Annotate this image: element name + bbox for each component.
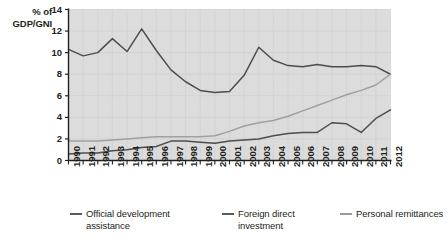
x-tick-label: 1991 <box>87 146 97 167</box>
x-tick-label: 1999 <box>204 146 214 167</box>
x-tick-label: 2003 <box>262 146 272 167</box>
x-tick-label: 2012 <box>394 146 404 167</box>
x-tick-label: 2005 <box>292 146 302 167</box>
x-tick-label: 2001 <box>233 146 243 167</box>
legend-item-personal-remittances: Personal remittances <box>340 208 448 220</box>
x-tick-label: 2006 <box>306 146 316 167</box>
x-tick-label: 2004 <box>277 146 287 167</box>
x-tick-label: 2002 <box>248 146 258 167</box>
legend-swatch-icon <box>222 213 234 215</box>
x-tick-label: 2010 <box>365 146 375 167</box>
x-tick-label: 1993 <box>116 146 126 167</box>
legend-swatch-icon <box>70 213 82 215</box>
legend-swatch-icon <box>340 213 352 215</box>
x-tick-label: 2000 <box>218 146 228 167</box>
x-tick-label: 1994 <box>131 146 141 167</box>
x-tick-label: 1995 <box>145 146 155 167</box>
x-tick-label: 1997 <box>175 146 185 167</box>
x-tick-label: 2007 <box>321 146 331 167</box>
x-tick-label: 1990 <box>72 146 82 167</box>
legend-label: Foreign direct investment <box>238 208 295 231</box>
x-tick-label: 1996 <box>160 146 170 167</box>
legend-item-foreign-direct-investment: Foreign direct investment <box>222 208 337 231</box>
x-tick-label: 1998 <box>189 146 199 167</box>
chart-legend: Official development assistance Foreign … <box>60 208 400 242</box>
legend-item-official-development-assistance: Official development assistance <box>70 208 220 231</box>
x-tick-label: 2008 <box>336 146 346 167</box>
x-tick-label: 1992 <box>101 146 111 167</box>
legend-label: Official development assistance <box>86 208 170 231</box>
legend-label: Personal remittances <box>356 208 443 220</box>
x-tick-label: 2011 <box>379 146 389 167</box>
x-tick-label: 2009 <box>350 146 360 167</box>
